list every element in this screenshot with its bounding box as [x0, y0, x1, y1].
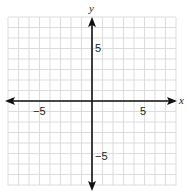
- x-axis: [5, 97, 177, 105]
- y-axis-label: y: [88, 2, 94, 14]
- x-tick-label-5: 5: [140, 105, 146, 117]
- y-tick-label-5: 5: [95, 42, 101, 54]
- x-tick-label-neg5: −5: [33, 105, 46, 117]
- x-axis-label: x: [178, 94, 184, 106]
- y-tick-label-neg5: −5: [95, 150, 108, 162]
- coordinate-plane: x y −5 5 5 −5: [0, 0, 189, 195]
